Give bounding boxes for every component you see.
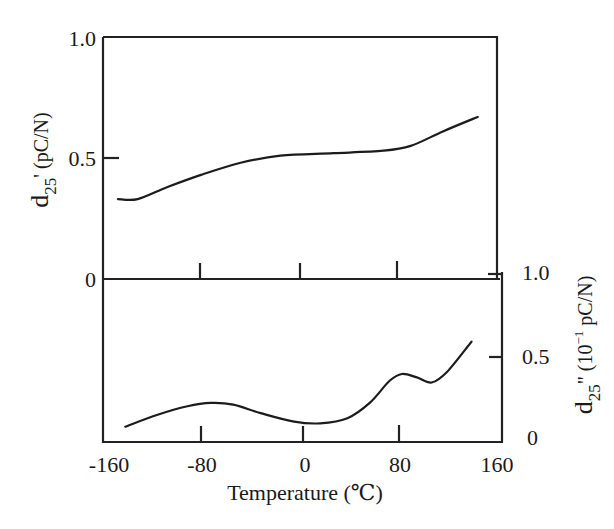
upper-y-title-main: d xyxy=(25,195,54,208)
upper-y-tick-label-1.0: 1.0 xyxy=(69,26,97,51)
lower-y-title-main: d xyxy=(569,401,598,414)
x-tick-label--160: -160 xyxy=(89,452,129,477)
x-tick-label-0: 0 xyxy=(300,452,311,477)
lower-y-title-rest-a: " (10 xyxy=(574,345,597,385)
x-tick-label-80: 80 xyxy=(389,452,411,477)
lower-panel-frame xyxy=(103,272,502,442)
upper-series-line xyxy=(118,117,478,200)
lower-y-title-rest-b: pC/N) xyxy=(574,276,597,331)
upper-y-title-sub: 25 xyxy=(41,178,60,195)
lower-y-title-sub: 25 xyxy=(585,384,604,401)
x-tick-label--80: -80 xyxy=(187,452,216,477)
upper-y-axis-title: d25' (pC/N) xyxy=(25,112,60,207)
chart-canvas: 1.0 0.5 0 1.0 0.5 0 -160 -80 0 80 160 Te… xyxy=(0,0,614,529)
lower-y-tick-label-0: 0 xyxy=(527,425,538,450)
lower-series-line xyxy=(125,342,471,427)
upper-y-title-rest: ' (pC/N) xyxy=(30,112,53,177)
lower-y-tick-label-1.0: 1.0 xyxy=(522,260,550,285)
upper-y-tick-label-0.5: 0.5 xyxy=(69,146,97,171)
lower-y-tick-label-0.5: 0.5 xyxy=(522,344,550,369)
lower-y-axis-title: d25" (10−1 pC/N) xyxy=(569,276,604,415)
upper-y-tick-label-0: 0 xyxy=(85,267,96,292)
lower-y-title-sup: −1 xyxy=(571,331,586,345)
chart-figure: 1.0 0.5 0 1.0 0.5 0 -160 -80 0 80 160 Te… xyxy=(0,0,614,529)
upper-panel-frame xyxy=(103,37,497,279)
x-axis-title: Temperature (℃) xyxy=(227,480,383,505)
x-tick-label-160: 160 xyxy=(481,452,514,477)
